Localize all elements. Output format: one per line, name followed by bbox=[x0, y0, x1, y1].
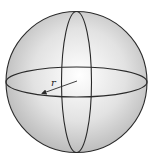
sphere-outline bbox=[6, 12, 147, 153]
sphere-diagram: r bbox=[0, 0, 153, 164]
